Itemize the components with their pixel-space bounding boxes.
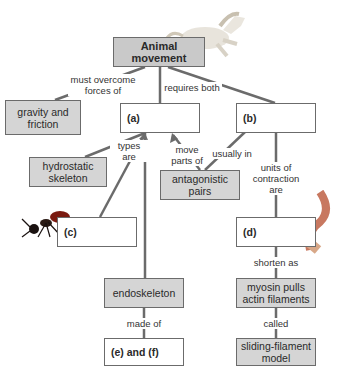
- link-types-are: types are: [110, 140, 148, 162]
- node-antagonistic-pairs: antagonistic pairs: [160, 170, 240, 200]
- link-units-of-contraction: units of contraction are: [252, 162, 300, 195]
- link-shorten-as: shorten as: [252, 257, 300, 268]
- node-d: (d): [236, 217, 316, 247]
- link-called: called: [260, 318, 292, 329]
- node-c: (c): [57, 217, 137, 247]
- link-must-overcome: must overcome forces of: [68, 74, 138, 96]
- node-hydrostatic-skeleton: hydrostatic skeleton: [29, 157, 107, 187]
- link-made-of: made of: [124, 318, 164, 329]
- node-endoskeleton: endoskeleton: [104, 278, 184, 308]
- node-sliding-filament: sliding-filament model: [236, 338, 316, 366]
- node-b: (b): [236, 103, 316, 133]
- node-a: (a): [120, 103, 200, 133]
- node-myosin: myosin pulls actin filaments: [236, 278, 316, 308]
- node-animal-movement: Animal movement: [113, 37, 205, 67]
- node-gravity-friction: gravity and friction: [5, 100, 81, 135]
- link-move-parts-of: move parts of: [170, 144, 204, 166]
- link-usually-in: usually in: [212, 148, 252, 159]
- node-e-and-f: (e) and (f): [104, 338, 184, 366]
- link-requires-both: requires both: [162, 82, 222, 93]
